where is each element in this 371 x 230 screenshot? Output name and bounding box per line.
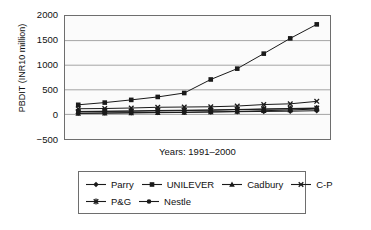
data-point-square: [208, 77, 213, 82]
data-point-diamond: [93, 182, 98, 187]
data-point-square: [235, 66, 240, 71]
data-point-square: [288, 36, 293, 41]
legend-marker-star-icon: [85, 196, 107, 207]
data-point-circle: [76, 109, 81, 114]
legend-key-circle-icon: [138, 196, 160, 207]
series-canvas: [65, 16, 330, 139]
data-point-circle: [288, 107, 293, 112]
data-point-square: [102, 100, 107, 105]
legend-item-nestle[interactable]: Nestle: [138, 196, 191, 207]
legend-item-parry[interactable]: Parry: [85, 179, 134, 190]
y-tick-1500: 1500: [24, 35, 58, 45]
legend-marker-square-icon: [141, 179, 163, 190]
data-point-circle: [235, 107, 240, 112]
series-line-c-p: [78, 101, 317, 108]
y-tick-0: 0: [24, 110, 58, 120]
legend-item-p-g[interactable]: P&G: [85, 196, 131, 207]
legend-label: Nestle: [164, 196, 191, 207]
legend-key-cross-icon: [290, 179, 312, 190]
y-tick-minus500: −500: [24, 135, 58, 145]
data-point-circle: [314, 106, 319, 111]
y-tick-2000: 2000: [24, 10, 58, 20]
legend-item-cadbury[interactable]: Cadbury: [221, 179, 283, 190]
data-point-square: [261, 51, 266, 56]
data-point-circle: [147, 199, 152, 204]
legend-label: UNILEVER: [167, 179, 215, 190]
y-tick-1000: 1000: [24, 60, 58, 70]
legend-row-2: P&GNestle: [85, 193, 299, 210]
plot-area: [64, 15, 331, 140]
legend-key-triangle-icon: [221, 179, 243, 190]
data-point-circle: [261, 107, 266, 112]
legend-marker-diamond-icon: [85, 179, 107, 190]
y-tick-500: 500: [24, 85, 58, 95]
data-point-square: [155, 95, 160, 100]
data-point-square: [182, 91, 187, 96]
data-point-circle: [129, 109, 134, 114]
chart-legend: ParryUNILEVERCadburyC-P P&GNestle: [78, 171, 306, 214]
data-point-square: [314, 22, 319, 27]
data-point-square: [129, 98, 134, 103]
legend-label: Parry: [111, 179, 134, 190]
data-point-circle: [208, 108, 213, 113]
legend-marker-triangle-icon: [221, 179, 243, 190]
y-axis-tick-labels: 2000 1500 1000 500 0 −500: [22, 0, 58, 145]
legend-key-square-icon: [141, 179, 163, 190]
legend-key-diamond-icon: [85, 179, 107, 190]
legend-label: P&G: [111, 196, 131, 207]
legend-item-c-p[interactable]: C-P: [290, 179, 332, 190]
data-point-circle: [102, 109, 107, 114]
legend-marker-cross-icon: [290, 179, 312, 190]
chart-figure: PBDIT (INR10 million) 2000 1500 1000 500…: [0, 0, 371, 230]
legend-label: Cadbury: [247, 179, 283, 190]
data-point-circle: [155, 109, 160, 114]
x-axis-title: Years: 1991–2000: [64, 146, 331, 157]
series-line-unilever: [78, 24, 317, 104]
data-point-square: [149, 182, 154, 187]
legend-row-1: ParryUNILEVERCadburyC-P: [85, 176, 299, 193]
legend-label: C-P: [316, 179, 332, 190]
legend-marker-circle-icon: [138, 196, 160, 207]
data-point-circle: [182, 108, 187, 113]
legend-item-unilever[interactable]: UNILEVER: [141, 179, 215, 190]
legend-key-star-icon: [85, 196, 107, 207]
